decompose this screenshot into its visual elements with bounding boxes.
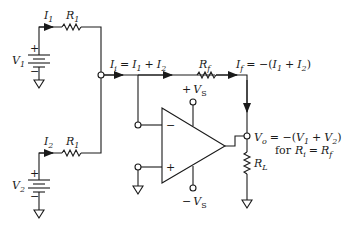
ground-icon	[34, 210, 44, 218]
output-node-icon	[244, 133, 250, 139]
inverting-input-node-icon	[135, 122, 141, 128]
v2-minus: −	[30, 190, 39, 203]
noninverting-input-node-icon	[135, 164, 141, 170]
resistor-r1-top	[62, 24, 81, 30]
input-branch-2: + − V2 I2 R1	[12, 78, 101, 218]
condition-text: forRi=Rf	[275, 144, 334, 159]
v2-plus: +	[30, 167, 39, 180]
pos-supply-node-icon	[190, 99, 196, 105]
v1-plus: +	[30, 42, 39, 55]
ground-icon	[34, 80, 44, 88]
v2-label: V2	[12, 179, 25, 194]
input-branch-1: + − V1 I1 R1	[12, 9, 101, 88]
r1-label-bottom: R1	[65, 135, 79, 150]
resistor-r1-bottom	[62, 150, 81, 156]
ground-icon	[133, 186, 143, 194]
v1-minus: −	[30, 65, 39, 78]
junction-node-icon	[98, 72, 104, 78]
ground-icon	[242, 200, 252, 208]
neg-supply-node-icon	[190, 185, 196, 191]
inverting-sign: −	[166, 119, 175, 132]
v1-label: V1	[12, 54, 25, 69]
ii-equation: Ii=I1+I2	[109, 58, 166, 73]
output-stage: RL Vo= −(V1+V2) forRi=Rf	[242, 131, 342, 208]
pos-supply-label: +VS	[182, 83, 207, 98]
rf-label: Rf	[198, 58, 212, 73]
i1-label: I1	[43, 9, 53, 24]
i2-label: I2	[43, 135, 53, 150]
rl-label: RL	[253, 157, 268, 172]
neg-supply-label: −VS	[182, 195, 207, 210]
r1-label-top: R1	[65, 9, 79, 24]
noninverting-sign: +	[166, 161, 175, 174]
if-equation: If= −(I1+I2)	[235, 58, 311, 73]
resistor-rl	[244, 152, 250, 174]
summing-amplifier-diagram: + − V1 I1 R1 + − V2 I2 R1 I	[0, 0, 348, 228]
op-amp: − + +VS −VS	[133, 83, 244, 210]
